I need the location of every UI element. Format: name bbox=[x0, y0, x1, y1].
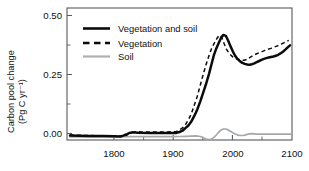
chart-figure: Carbon pool change (Pg C yr⁻¹) 0.50 0.25… bbox=[0, 0, 309, 171]
y-tick-label-000: 0.00 bbox=[43, 128, 62, 139]
y-axis-title-line2: (Pg C yr⁻¹) bbox=[17, 79, 27, 124]
legend-label-soil: Soil bbox=[118, 51, 134, 62]
x-tick-label-1900: 1900 bbox=[162, 148, 183, 159]
y-tick-label-025: 0.25 bbox=[43, 69, 62, 80]
x-tick-label-2100: 2100 bbox=[281, 148, 302, 159]
x-tick-label-2000: 2000 bbox=[222, 148, 243, 159]
x-tick-label-1800: 1800 bbox=[103, 148, 124, 159]
legend-label-vegetation-and-soil: Vegetation and soil bbox=[118, 23, 197, 34]
legend-label-vegetation: Vegetation bbox=[118, 38, 162, 49]
y-tick-label-050: 0.50 bbox=[43, 10, 62, 21]
y-axis-title-line1: Carbon pool change bbox=[6, 50, 16, 133]
